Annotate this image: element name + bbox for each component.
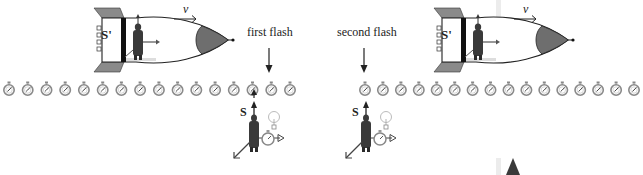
stopwatch-icon xyxy=(503,82,513,96)
left-first-flash-arrow xyxy=(266,48,273,73)
left-velocity-label: v xyxy=(183,2,188,17)
left-observer-frame-label: S xyxy=(240,105,247,120)
stopwatch-icon xyxy=(378,82,388,96)
first-flash-label: first flash xyxy=(247,25,293,40)
stopwatch-icon xyxy=(539,82,549,96)
stopwatch-icon xyxy=(229,82,239,96)
stopwatch-icon xyxy=(98,82,108,96)
partial-triangle-shape xyxy=(506,158,520,175)
stopwatch-icon xyxy=(396,82,406,96)
scan-artifact xyxy=(496,0,501,18)
left-rocket xyxy=(94,8,235,72)
stopwatch-icon xyxy=(611,82,621,96)
stopwatch-icon xyxy=(557,82,567,96)
stopwatch-icon xyxy=(135,82,145,96)
stopwatch-icon xyxy=(4,82,14,96)
relativity-diagram: v S' first flash S v S' second flash S xyxy=(0,0,643,175)
stopwatch-icon xyxy=(154,82,164,96)
stopwatch-icon xyxy=(172,82,182,96)
left-clock-row xyxy=(4,82,295,96)
stopwatch-icon xyxy=(60,82,70,96)
left-rocket-frame-label: S' xyxy=(101,27,112,43)
stopwatch-icon xyxy=(521,82,531,96)
stopwatch-icon xyxy=(191,82,201,96)
right-observer-frame-label: S xyxy=(352,105,359,120)
stopwatch-icon xyxy=(593,82,603,96)
stopwatch-icon xyxy=(79,82,89,96)
right-velocity-label: v xyxy=(523,2,528,17)
right-rocket xyxy=(434,8,575,72)
stopwatch-icon xyxy=(432,82,442,96)
stopwatch-icon xyxy=(485,82,495,96)
right-second-flash-arrow xyxy=(361,48,368,73)
stopwatch-icon xyxy=(414,82,424,96)
stopwatch-icon xyxy=(41,82,51,96)
right-rocket-frame-label: S' xyxy=(441,27,452,43)
stopwatch-icon xyxy=(629,82,639,96)
stopwatch-icon xyxy=(360,82,370,96)
stopwatch-icon xyxy=(266,82,276,96)
stopwatch-icon xyxy=(285,82,295,96)
stopwatch-icon xyxy=(210,82,220,96)
left-observer xyxy=(234,89,284,158)
stopwatch-icon xyxy=(575,82,585,96)
stopwatch-icon xyxy=(467,82,477,96)
right-clock-row xyxy=(360,82,639,96)
stopwatch-icon xyxy=(450,82,460,96)
stopwatch-icon xyxy=(23,82,33,96)
second-flash-label: second flash xyxy=(337,25,397,40)
stopwatch-icon xyxy=(116,82,126,96)
scan-artifact xyxy=(496,158,501,175)
